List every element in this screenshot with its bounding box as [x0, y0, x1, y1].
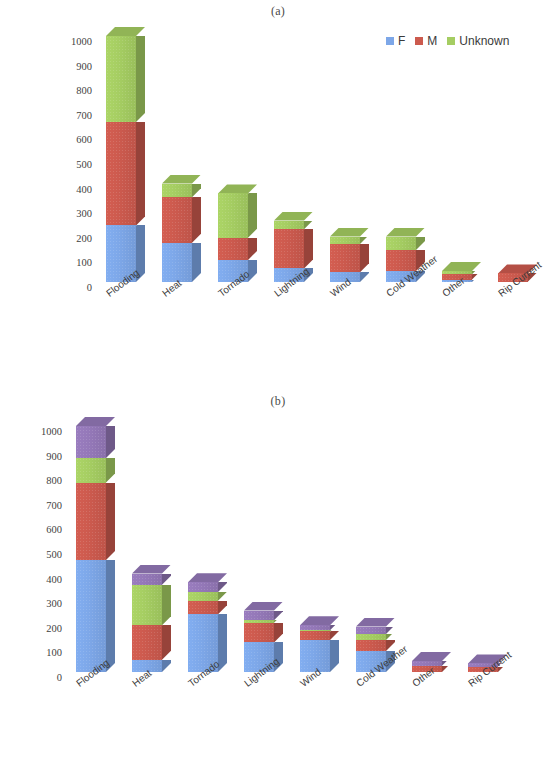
bar-segment-side [386, 627, 395, 634]
bar-segment-side [360, 272, 369, 282]
texture-overlay [218, 193, 248, 237]
bar-segment [218, 193, 248, 237]
texture-overlay [300, 625, 330, 630]
bar-segment [244, 620, 274, 622]
bar-top-face [274, 212, 313, 221]
bar-stack [162, 184, 192, 282]
bar-segment-side [360, 237, 369, 244]
bar-segment [300, 625, 330, 630]
plot-area-b [66, 426, 518, 672]
texture-overlay [162, 243, 192, 282]
bar-segment-side [472, 280, 481, 282]
bar-segment [132, 585, 162, 626]
bar-segment-side [136, 36, 145, 122]
bar-segment [442, 271, 472, 274]
bar-segment-side [106, 458, 115, 483]
bar-top-face [356, 618, 395, 627]
bar-segment [76, 483, 106, 560]
bar-segment [76, 426, 106, 458]
legend-item[interactable]: M [415, 34, 437, 48]
bar-segment-side [248, 260, 257, 282]
texture-overlay [274, 221, 304, 230]
texture-overlay [132, 625, 162, 659]
x-axis-labels-a: FloodingHeatTornadoLightningWindCold Wea… [96, 288, 548, 348]
bar-segment-side [248, 193, 257, 237]
plot-area-a [96, 36, 548, 282]
texture-overlay [106, 122, 136, 225]
bar-segment-side [192, 243, 201, 282]
bar-top-face [300, 616, 339, 625]
bar-segment-side [162, 625, 171, 659]
bar-segment-side [330, 631, 339, 640]
bar-segment [106, 36, 136, 122]
texture-overlay [162, 197, 192, 243]
y-axis-b: 01002003004005006007008009001000 [22, 426, 62, 672]
texture-overlay [356, 640, 386, 651]
legend-item[interactable]: F [386, 34, 405, 48]
bar-segment [132, 625, 162, 659]
bar-top-face [132, 565, 171, 574]
bar-segment-side [218, 582, 227, 592]
texture-overlay [300, 630, 330, 631]
bar-top-face [218, 184, 257, 193]
bar-segment-side [248, 238, 257, 260]
panel-b-title: (b) [0, 394, 556, 409]
bar-segment [76, 458, 106, 483]
bar-segment-side [416, 237, 425, 251]
bar-stack [300, 625, 330, 672]
bar-top-face [244, 602, 283, 611]
texture-overlay [188, 601, 218, 615]
bar-top-face [412, 652, 451, 661]
texture-overlay [76, 483, 106, 560]
bar-segment [132, 574, 162, 585]
bar-segment-side [192, 184, 201, 198]
bar-segment [218, 238, 248, 260]
bar-segment [188, 582, 218, 592]
legend-item[interactable]: Unknown [447, 34, 509, 48]
bar-top-face [106, 27, 145, 36]
bar-segment-side [218, 601, 227, 615]
bar-segment [274, 221, 304, 230]
legend-label: F [398, 34, 405, 48]
texture-overlay [76, 426, 106, 458]
texture-overlay [244, 620, 274, 622]
texture-overlay [274, 229, 304, 268]
bar-segment-side [162, 660, 171, 672]
bar-segment-side [304, 229, 313, 268]
texture-overlay [188, 592, 218, 601]
bar-top-face [330, 228, 369, 237]
bar-segment-side [330, 640, 339, 672]
bar-segment [330, 244, 360, 272]
chart-panel-a: (a) 01002003004005006007008009001000 Flo… [0, 0, 556, 390]
bar-segment [300, 630, 330, 631]
bar-segment-side [106, 483, 115, 560]
texture-overlay [330, 244, 360, 272]
bar-segment-side [162, 574, 171, 585]
bar-segment [330, 237, 360, 244]
bar-segment-side [304, 221, 313, 230]
x-axis-labels-b: FloodingHeatTornadoLightningWindCold Wea… [66, 678, 518, 738]
bar-stack [330, 237, 360, 282]
texture-overlay [386, 237, 416, 251]
texture-overlay [356, 634, 386, 640]
legend-label: M [427, 34, 437, 48]
texture-overlay [412, 661, 442, 666]
legend-swatch-icon [415, 37, 423, 45]
y-axis-a: 01002003004005006007008009001000 [52, 36, 92, 282]
texture-overlay [188, 582, 218, 592]
texture-overlay [132, 585, 162, 626]
bar-top-face [386, 228, 425, 237]
texture-overlay [76, 560, 106, 672]
bar-stack [106, 36, 136, 282]
bar-segment-side [360, 244, 369, 272]
chart-panel-b: (b) 01002003004005006007008009001000 Flo… [0, 390, 556, 776]
bar-segment [386, 237, 416, 251]
texture-overlay [442, 271, 472, 274]
bar-top-face [162, 175, 201, 184]
bar-segment-side [442, 666, 451, 672]
texture-overlay [106, 36, 136, 122]
bar-segment [106, 122, 136, 225]
bar-stack [132, 574, 162, 672]
legend-swatch-icon [447, 37, 455, 45]
bar-segment-side [162, 585, 171, 626]
